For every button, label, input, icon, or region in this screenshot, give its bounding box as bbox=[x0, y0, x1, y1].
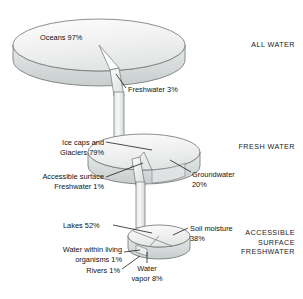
callout-rivers: Rivers 1% bbox=[60, 266, 120, 276]
callout-freshwater: Freshwater 3% bbox=[128, 85, 178, 95]
group-label-fresh-water: FRESH WATER bbox=[239, 142, 295, 152]
callout-accessible-surface-freshwater: Accessible surface Freshwater 1% bbox=[8, 172, 104, 191]
callout-oceans: Oceans 97% bbox=[40, 33, 82, 43]
column-shaft-2 bbox=[136, 182, 145, 228]
group-label-accessible-surface-freshwater: ACCESSIBLE SURFACE FRESHWATER bbox=[241, 228, 295, 257]
callout-water-within-living-organisms: Water within living organisms 1% bbox=[30, 245, 122, 264]
callout-groundwater: Groundwater 20% bbox=[192, 170, 235, 189]
group-label-all-water: ALL WATER bbox=[251, 40, 295, 50]
pie-fresh-water bbox=[88, 134, 200, 186]
callout-water-vapor: Water vapor 8% bbox=[125, 264, 169, 283]
callout-soil-moisture: Soil moisture 38% bbox=[190, 224, 233, 243]
column-shaft-1 bbox=[114, 92, 124, 140]
connector-column-1 bbox=[114, 92, 124, 140]
connector-column-2 bbox=[136, 182, 145, 228]
callout-lakes: Lakes 52% bbox=[63, 221, 100, 231]
callout-ice-caps-glaciers: Ice caps and Glaciers 79% bbox=[26, 138, 104, 157]
